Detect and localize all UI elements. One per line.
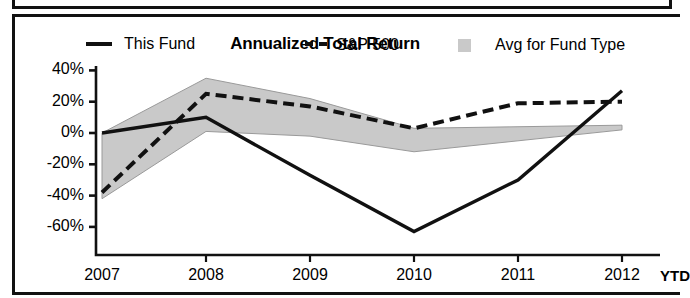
x-tick-label-2007: 2007 [67,266,137,284]
y-tick-label-3: -20% [18,154,84,172]
x-axis-ytd-label: YTD [660,267,690,284]
x-tick-label-2008: 2008 [171,266,241,284]
x-tick-label-2010: 2010 [379,266,449,284]
avg-fund-type-band [102,78,622,199]
x-tick-label-2011: 2011 [483,266,553,284]
x-tick-label-2009: 2009 [275,266,345,284]
x-tick-label-2012: 2012 [587,266,657,284]
y-tick-label-1: 20% [18,92,84,110]
y-tick-label-4: -40% [18,186,84,204]
y-tick-label-0: 40% [18,60,84,78]
y-tick-label-5: -60% [18,217,84,235]
y-tick-label-2: 0% [18,123,84,141]
